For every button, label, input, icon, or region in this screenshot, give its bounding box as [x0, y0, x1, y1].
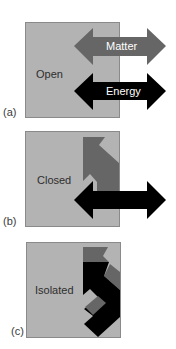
energy-label: Energy: [106, 85, 141, 97]
panel-open: Matter Energy Open (a): [3, 23, 166, 119]
panel-isolated: Isolated (c): [11, 243, 121, 338]
panel-marker-c: (c): [11, 325, 24, 337]
system-label-closed: Closed: [37, 174, 71, 186]
panel-marker-a: (a): [3, 106, 16, 118]
panel-marker-b: (b): [3, 215, 16, 227]
systems-diagram: Matter Energy Open (a) Closed (b) Isolat…: [0, 0, 176, 349]
system-label-isolated: Isolated: [35, 284, 74, 296]
panel-closed: Closed (b): [3, 132, 166, 228]
system-label-open: Open: [36, 68, 63, 80]
matter-label: Matter: [106, 40, 138, 52]
